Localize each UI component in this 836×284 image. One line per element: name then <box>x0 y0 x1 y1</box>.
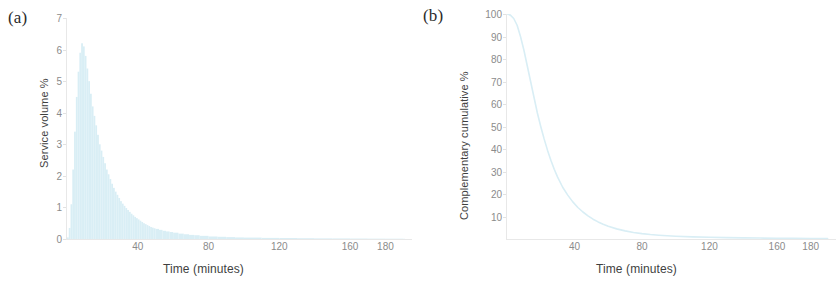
y-tick-mark <box>503 82 506 83</box>
x-tick-label: 120 <box>701 241 718 252</box>
y-tick-label: 7 <box>32 13 62 24</box>
panel-a: (a) Service volume % Time (minutes) 0123… <box>0 0 418 284</box>
x-tick-label: 160 <box>769 241 786 252</box>
panel-a-y-axis-title: Service volume % <box>38 78 50 168</box>
panel-b: (b) Complementary cumulative % Time (min… <box>418 0 836 284</box>
histogram-bar <box>102 157 104 239</box>
x-tick-label: 120 <box>271 241 288 252</box>
panel-b-x-axis-line <box>506 239 836 240</box>
histogram-bar <box>166 231 170 239</box>
panel-b-x-axis-title: Time (minutes) <box>596 262 677 276</box>
histogram-bar <box>118 198 120 239</box>
histogram-bar <box>117 195 119 239</box>
histogram-bar <box>78 72 80 239</box>
y-tick-mark <box>63 176 66 177</box>
histogram-bar <box>140 221 142 239</box>
panel-a-data-series <box>67 18 412 239</box>
histogram-bar <box>99 144 101 239</box>
ccdf-curve <box>507 14 828 239</box>
histogram-bar <box>104 163 106 239</box>
histogram-bar <box>125 208 127 239</box>
histogram-bar <box>108 174 110 239</box>
y-tick-mark <box>63 18 66 19</box>
panel-b-label: (b) <box>423 6 443 26</box>
x-tick-label: 160 <box>342 241 359 252</box>
figure-container: (a) Service volume % Time (minutes) 0123… <box>0 0 836 284</box>
y-tick-label: 10 <box>472 211 502 222</box>
x-tick-label: 80 <box>203 241 214 252</box>
histogram-bar <box>109 179 111 239</box>
y-tick-label: 3 <box>32 139 62 150</box>
panel-b-y-axis-line <box>506 14 507 239</box>
y-tick-mark <box>63 113 66 114</box>
panel-a-x-axis-line <box>66 239 412 240</box>
histogram-bar <box>111 184 113 239</box>
x-tick-label: 40 <box>132 241 143 252</box>
panel-a-y-axis-line <box>66 18 67 239</box>
histogram-bar <box>106 170 108 239</box>
y-tick-label: 2 <box>32 170 62 181</box>
y-tick-mark <box>503 217 506 218</box>
histogram-bar <box>85 56 87 239</box>
x-tick-label: 180 <box>802 241 819 252</box>
histogram-bar <box>132 215 134 239</box>
histogram-bar <box>72 170 74 239</box>
histogram-bar <box>113 188 115 239</box>
histogram-bar <box>79 53 81 239</box>
y-tick-mark <box>503 37 506 38</box>
y-tick-label: 60 <box>472 99 502 110</box>
histogram-bar <box>150 227 152 239</box>
histogram-bar <box>129 212 131 239</box>
y-tick-mark <box>503 59 506 60</box>
histogram-bar <box>148 226 150 239</box>
histogram-bar <box>122 204 124 239</box>
panel-b-data-series <box>507 14 836 239</box>
histogram-bar <box>74 132 76 239</box>
panel-a-label: (a) <box>8 8 27 28</box>
histogram-bar <box>163 231 167 239</box>
y-tick-label: 4 <box>32 107 62 118</box>
histogram-bar <box>124 206 126 239</box>
y-tick-label: 70 <box>472 76 502 87</box>
y-tick-mark <box>63 50 66 51</box>
histogram-bar <box>127 210 129 239</box>
x-tick-label: 180 <box>377 241 394 252</box>
y-tick-label: 5 <box>32 76 62 87</box>
histogram-bar <box>97 135 99 239</box>
x-tick-label: 80 <box>636 241 647 252</box>
y-tick-label: 80 <box>472 54 502 65</box>
y-tick-mark <box>503 104 506 105</box>
histogram-bar <box>147 225 149 239</box>
histogram-bar <box>90 94 92 239</box>
histogram-bar <box>170 232 174 239</box>
y-tick-mark <box>503 149 506 150</box>
y-tick-label: 0 <box>32 234 62 245</box>
histogram-bar <box>145 224 147 239</box>
y-tick-label: 100 <box>472 9 502 20</box>
histogram-bar <box>92 106 94 239</box>
histogram-bar <box>86 69 88 239</box>
histogram-bar <box>76 97 78 239</box>
y-tick-label: 6 <box>32 44 62 55</box>
y-tick-mark <box>63 81 66 82</box>
y-tick-label: 40 <box>472 144 502 155</box>
histogram-bar <box>83 46 85 239</box>
histogram-bar <box>155 229 159 239</box>
panel-a-plot-area <box>67 18 412 239</box>
histogram-bar <box>159 230 163 239</box>
y-tick-mark <box>503 172 506 173</box>
histogram-bar <box>115 192 117 239</box>
histogram-bar <box>94 116 96 239</box>
panel-b-y-axis-title: Complementary cumulative % <box>458 71 470 220</box>
y-tick-mark <box>503 194 506 195</box>
histogram-bar <box>152 228 154 239</box>
histogram-bar <box>134 217 136 239</box>
histogram-bar <box>95 125 97 239</box>
y-tick-label: 20 <box>472 189 502 200</box>
x-tick-label: 40 <box>569 241 580 252</box>
histogram-bar <box>120 201 122 239</box>
histogram-bar <box>81 43 83 239</box>
y-tick-label: 90 <box>472 31 502 42</box>
histogram-bar <box>136 218 138 239</box>
histogram-bar <box>69 228 71 239</box>
